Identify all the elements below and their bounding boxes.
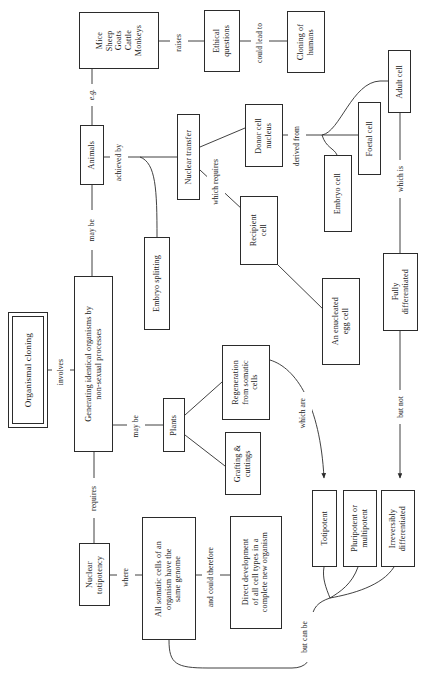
node-grafting-cuttings-label: Grafting & cuttings [233,445,252,482]
edge-label-requires: requires [85,478,103,518]
node-animals[interactable]: Animals [80,125,104,185]
node-animals-label: Animals [87,141,97,169]
node-fully-differentiated-label: Fully differentiated [391,269,410,314]
edge-label-raises: raises [170,26,188,60]
node-embryo-cell-label: Embryo cell [333,173,343,214]
node-cloning-of-humans-label: Cloning of humans [296,24,315,60]
node-organismal-cloning[interactable]: Organismal cloning [8,312,48,428]
node-definition[interactable]: Generating identical organisms by non-se… [74,276,113,452]
edge-label-may-be-animals-text: may be [88,219,97,241]
node-irreversibly-differentiated-label: Irreversibly differentiated [388,506,407,551]
node-species-list[interactable]: Mice Sheep Goats Cattle Monkeys [79,12,159,69]
edge-label-could-lead-to: could lead to [251,16,269,70]
node-enucleated-egg-cell[interactable]: An enucleated egg cell [322,278,360,365]
node-donor-cell-nucleus[interactable]: Donor cell nucleus [245,104,283,167]
node-cloning-of-humans[interactable]: Cloning of humans [287,11,325,73]
node-adult-cell-label: Adult cell [395,65,405,99]
edge-label-raises-text: raises [175,34,184,52]
edge-butcanbe-irreversible [330,567,394,598]
node-embryo-splitting[interactable]: Embryo splitting [144,237,170,330]
edge-label-derived-from-text: derived from [293,126,302,166]
node-nuclear-totipotency[interactable]: Nuclear totipotency [79,543,110,606]
node-donor-cell-nucleus-label: Donor cell nucleus [254,118,273,154]
node-fully-differentiated[interactable]: Fully differentiated [383,253,418,331]
node-ethical-questions[interactable]: Ethical questions [204,10,240,72]
node-embryo-cell[interactable]: Embryo cell [324,155,352,232]
edge-label-derived-from: derived from [288,120,306,172]
node-ethical-questions-label: Ethical questions [212,25,231,57]
edge-label-requires-text: requires [90,486,99,511]
node-regeneration-somatic-cells[interactable]: Regeneration from somatic cells [222,345,270,420]
edge-plants-grafting [185,435,225,466]
edge-label-achieved-by: achieved by [110,138,128,188]
edge-label-and-could-therefore-text: and could therefore [207,547,216,607]
edge-fan-embryocell [322,135,337,155]
edge-recipient-enucleated [278,265,326,312]
edge-nucleartransfer-donor [200,128,245,147]
concept-map-canvas: Organismal cloning Generating identical … [0,0,429,674]
node-recipient-cell[interactable]: Recipient cell [240,196,278,265]
node-direct-development[interactable]: Direct development of all cell types in … [230,516,282,629]
node-foetal-cell[interactable]: Foetal cell [358,102,381,175]
edge-label-eg-text: e.g. [88,89,97,100]
edge-label-but-can-be: but can be [296,612,314,662]
edge-label-could-lead-to-text: could lead to [256,23,265,63]
edge-butcanbe-totipotent [323,567,330,598]
edge-label-which-requires: which requires [207,155,225,209]
edge-label-may-be-animals: may be [83,210,101,250]
edge-label-which-requires-text: which requires [212,159,221,205]
node-nuclear-transfer[interactable]: Nuclear transfer [177,114,200,200]
node-foetal-cell-label: Foetal cell [365,121,375,156]
edge-label-may-be-plants: may be [127,407,145,445]
node-organismal-cloning-inner: Organismal cloning [12,316,44,424]
node-enucleated-egg-cell-label: An enucleated egg cell [331,297,350,345]
node-grafting-cuttings[interactable]: Grafting & cuttings [225,432,261,495]
edge-plants-regeneration [185,382,222,415]
node-totipotent[interactable]: Totipotent [312,490,337,567]
edge-label-which-is: which is [392,160,410,198]
node-embryo-splitting-label: Embryo splitting [152,255,162,312]
node-adult-cell[interactable]: Adult cell [388,50,411,113]
edge-label-achieved-by-text: achieved by [115,144,124,181]
edge-label-which-are: which are [294,392,312,434]
edge-label-which-is-text: which is [397,166,406,192]
node-species-list-label: Mice Sheep Goats Cattle Monkeys [95,25,143,56]
edge-label-involves: involves [52,352,70,392]
edge-label-may-be-plants-text: may be [132,415,141,437]
node-nuclear-totipotency-label: Nuclear totipotency [85,556,104,594]
node-regeneration-somatic-cells-label: Regeneration from somatic cells [231,360,260,405]
edge-label-where-text: where [122,568,131,587]
edge-label-where: where [117,562,135,592]
node-somatic-cells-genome[interactable]: All somatic cells of an organism have th… [142,517,196,640]
node-plants-label: Plants [169,415,179,436]
edge-label-which-are-text: which are [299,398,308,428]
edge-label-and-could-therefore: and could therefore [202,540,220,614]
node-nuclear-transfer-label: Nuclear transfer [184,130,194,185]
edge-label-eg: e.g. [83,84,101,106]
edge-butcanbe-pluripotent [330,567,358,598]
node-organismal-cloning-label: Organismal cloning [23,333,34,407]
node-pluripotent-multipotent-label: Pluripotent or multipotent [350,505,369,552]
node-definition-label: Generating identical organisms by non-se… [84,306,103,422]
node-recipient-cell-label: Recipient cell [249,214,268,246]
node-direct-development-label: Direct development of all cell types in … [241,532,270,612]
edge-label-but-not-text: but not [397,396,406,418]
node-totipotent-label: Totipotent [320,511,330,546]
node-plants[interactable]: Plants [163,398,185,452]
edge-label-involves-text: involves [57,359,66,385]
node-irreversibly-differentiated[interactable]: Irreversibly differentiated [381,490,415,567]
edge-animals-embryosplitting [140,157,157,237]
edge-label-but-can-be-text: but can be [301,621,310,653]
edge-label-but-not: but not [392,390,410,424]
node-somatic-cells-genome-label: All somatic cells of an organism have th… [154,541,183,617]
node-pluripotent-multipotent[interactable]: Pluripotent or multipotent [343,490,377,567]
